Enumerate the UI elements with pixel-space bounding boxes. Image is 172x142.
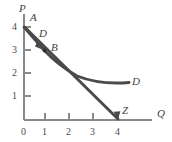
y-axis-label: P [19,3,26,14]
x-axis-ticks [45,113,118,120]
x-tick-label-3: 3 [90,127,95,137]
x-tick-label-4: 4 [115,127,120,137]
line-d-label: D [39,28,47,39]
y-tick-label-1: 1 [12,91,17,101]
point-z-label: Z [122,105,128,116]
x-tick-label-0: 0 [21,127,26,137]
curve-d-label: D [132,76,140,87]
demand-curve-figure: P Q 4 3 2 1 0 1 2 3 4 A D B D Z [0,0,172,142]
y-tick-label-3: 3 [12,45,17,55]
point-a-label: A [30,12,37,23]
y-tick-label-4: 4 [12,22,17,32]
x-axis-label: Q [157,108,165,119]
x-tick-label-1: 1 [42,127,47,137]
y-axis-ticks [24,27,31,96]
x-tick-label-2: 2 [66,127,71,137]
y-tick-label-2: 2 [12,68,17,78]
demand-line-az [25,27,119,119]
chart-canvas [0,0,172,142]
point-b-label: B [51,42,58,53]
point-b-marker [43,49,47,53]
